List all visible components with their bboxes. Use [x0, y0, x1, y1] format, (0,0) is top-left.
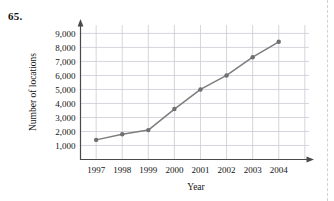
- y-tick-labels: 1,0002,0003,0004,0005,0006,0007,0008,000…: [55, 29, 76, 151]
- gridlines: [81, 25, 310, 160]
- y-axis-arrow: [78, 19, 84, 27]
- x-axis-title: Year: [187, 182, 205, 192]
- y-tick-label: 9,000: [55, 29, 76, 39]
- y-tick-label: 6,000: [55, 71, 76, 81]
- x-tick-label: 2000: [165, 165, 184, 175]
- data-point: [250, 55, 254, 59]
- x-tick-label: 1997: [87, 165, 106, 175]
- data-point: [172, 107, 176, 111]
- y-tick-label: 4,000: [55, 99, 76, 109]
- y-tick-label: 2,000: [55, 127, 76, 137]
- data-point: [198, 87, 202, 91]
- data-point: [146, 128, 150, 132]
- x-tick-labels: 19971998199920002001200220032004: [87, 165, 288, 175]
- data-point: [94, 138, 98, 142]
- x-axis-arrow: [307, 157, 315, 163]
- data-point: [224, 73, 228, 77]
- x-tick-label: 2003: [244, 165, 263, 175]
- y-tick-label: 7,000: [55, 57, 76, 67]
- data-point: [120, 132, 124, 136]
- y-tick-label: 1,000: [55, 141, 76, 151]
- y-tick-label: 8,000: [55, 43, 76, 53]
- x-tick-label: 2004: [270, 165, 289, 175]
- figure-panel: 65. 1,0002,0003,0004,0005,0006,0007,0008…: [0, 0, 334, 201]
- x-tick-label: 2001: [191, 165, 209, 175]
- x-tick-label: 1999: [139, 165, 158, 175]
- line-chart: 1,0002,0003,0004,0005,0006,0007,0008,000…: [0, 0, 334, 201]
- y-tick-label: 3,000: [55, 113, 76, 123]
- x-tick-label: 1998: [113, 165, 132, 175]
- y-axis-title: Number of locations: [28, 53, 38, 131]
- x-tick-label: 2002: [218, 165, 236, 175]
- y-tick-label: 5,000: [55, 85, 76, 95]
- data-point: [277, 40, 281, 44]
